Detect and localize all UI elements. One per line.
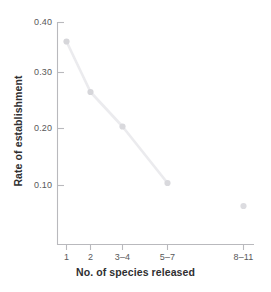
y-axis-title: Rate of establishment xyxy=(12,51,24,211)
data-point-4 xyxy=(164,180,170,186)
x-tick-label-4: 8–11 xyxy=(229,252,259,262)
data-points xyxy=(63,38,246,209)
data-line xyxy=(67,42,168,184)
plot-area xyxy=(0,0,271,292)
y-tick-label-3: 0.10 xyxy=(26,180,52,190)
data-point-1 xyxy=(63,38,69,44)
x-axis-ticks xyxy=(67,245,244,251)
y-tick-label-2: 0.20 xyxy=(26,123,52,133)
y-tick-label-1: 0.30 xyxy=(26,67,52,77)
x-tick-label-2: 3–4 xyxy=(108,252,138,262)
y-axis-ticks xyxy=(58,23,65,186)
data-point-2 xyxy=(87,89,93,95)
chart-figure: 0.40 0.30 0.20 0.10 1 2 3–4 5–7 8–11 No.… xyxy=(0,0,271,292)
x-tick-label-1: 2 xyxy=(76,252,106,262)
data-point-3 xyxy=(119,123,125,129)
y-tick-label-0: 0.40 xyxy=(26,17,52,27)
data-point-5 xyxy=(240,203,246,209)
x-tick-label-3: 5–7 xyxy=(153,252,183,262)
x-axis-title: No. of species released xyxy=(0,266,271,278)
